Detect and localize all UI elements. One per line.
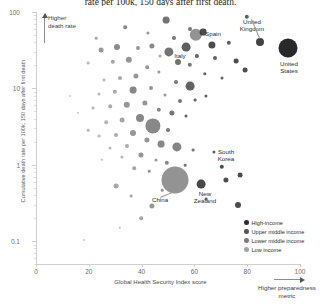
- country-label: New Zealand: [194, 190, 216, 204]
- data-point: [162, 167, 189, 194]
- data-point: [238, 173, 243, 178]
- data-point: [124, 102, 130, 108]
- data-point: [194, 99, 197, 102]
- data-point: [123, 25, 127, 29]
- x-tick-mark: [194, 264, 195, 267]
- data-point: [169, 110, 174, 115]
- data-point: [101, 159, 103, 161]
- data-point: [234, 59, 239, 64]
- legend-item-2[interactable]: Lower middle income: [244, 236, 304, 245]
- data-point: [145, 118, 160, 133]
- data-point: [138, 152, 143, 157]
- data-point: [95, 37, 98, 40]
- up-arrow-icon: [44, 17, 45, 43]
- data-point: [149, 43, 154, 48]
- x-tick-label: 0: [24, 268, 48, 275]
- data-point: [235, 202, 241, 208]
- x-tick-label: 100: [288, 268, 312, 275]
- data-point: [136, 46, 140, 50]
- data-point: [221, 77, 224, 80]
- y-tick-label: 1: [0, 161, 20, 168]
- data-point: [145, 65, 149, 69]
- data-point: [120, 155, 123, 158]
- data-point: [161, 189, 164, 192]
- data-point: [256, 38, 264, 46]
- data-point: [204, 94, 207, 97]
- right-arrow-icon: [274, 279, 300, 280]
- data-point: [149, 203, 154, 208]
- data-point: [195, 54, 199, 58]
- data-point: [166, 128, 170, 132]
- data-point: [130, 130, 136, 136]
- data-point: [158, 141, 165, 148]
- data-point: [172, 142, 181, 151]
- x-tick-mark: [142, 264, 143, 267]
- data-point: [136, 114, 144, 122]
- legend-label: Upper middle income: [252, 229, 305, 235]
- x-tick-label: 40: [130, 268, 154, 275]
- higher-preparedness-label: Higher preparedness metric: [253, 284, 321, 299]
- data-point: [186, 82, 195, 91]
- data-point: [132, 166, 136, 170]
- data-point: [126, 57, 132, 63]
- data-point: [175, 59, 181, 65]
- data-point: [120, 118, 125, 123]
- x-tick-mark: [247, 264, 248, 267]
- data-point: [144, 137, 149, 142]
- country-label: United States: [280, 60, 298, 74]
- x-tick-label: 60: [182, 268, 206, 275]
- data-point: [113, 90, 117, 94]
- country-label: Italy: [174, 52, 185, 59]
- data-point: [188, 63, 192, 67]
- data-point: [114, 133, 118, 137]
- data-point: [97, 92, 100, 95]
- data-point: [146, 31, 149, 34]
- y-axis-title: Cumulative death rate per 100k, 150 days…: [20, 56, 26, 206]
- data-point: [130, 195, 133, 198]
- data-point: [182, 43, 191, 52]
- legend-dot-icon: [244, 238, 249, 243]
- chart-title: rate per 100k, 150 days after first deat…: [0, 0, 321, 6]
- legend-item-3[interactable]: Low income: [244, 245, 304, 254]
- data-point: [279, 39, 298, 58]
- legend-item-0[interactable]: High-income: [244, 218, 304, 227]
- legend-item-1[interactable]: Upper middle income: [244, 227, 304, 236]
- legend-label: High-income: [252, 220, 283, 226]
- data-point: [220, 165, 224, 169]
- data-point: [108, 104, 112, 108]
- legend-label: Lower middle income: [252, 238, 305, 244]
- data-point: [164, 47, 173, 56]
- legend-dot-icon: [244, 229, 249, 234]
- x-tick-mark: [300, 264, 301, 267]
- data-point: [184, 164, 187, 167]
- y-tick-label: 10: [0, 85, 20, 92]
- data-point: [164, 94, 167, 97]
- x-tick-mark: [36, 264, 37, 267]
- legend-dot-icon: [244, 247, 249, 252]
- data-point: [172, 36, 176, 40]
- x-tick-label: 20: [77, 268, 101, 275]
- data-point: [142, 100, 147, 105]
- data-point: [69, 95, 71, 97]
- data-point: [208, 41, 215, 48]
- data-point: [148, 170, 151, 173]
- x-tick-mark: [89, 264, 90, 267]
- data-point: [178, 99, 182, 103]
- data-point: [109, 147, 112, 150]
- data-point: [98, 135, 101, 138]
- scatter-chart: rate per 100k, 150 days after first deat…: [0, 0, 321, 304]
- data-point: [174, 80, 178, 84]
- data-point: [157, 70, 160, 73]
- data-point: [192, 149, 195, 152]
- x-axis-line: [36, 264, 300, 265]
- data-point: [165, 161, 169, 165]
- x-tick-label: 80: [235, 268, 259, 275]
- data-point: [92, 107, 95, 110]
- y-tick-label: 0.1: [0, 238, 20, 245]
- legend-dot-icon: [244, 220, 249, 225]
- legend-label: Low income: [252, 247, 282, 253]
- data-point: [114, 44, 120, 50]
- data-point: [133, 73, 138, 78]
- data-point: [119, 227, 121, 229]
- data-point: [197, 180, 206, 189]
